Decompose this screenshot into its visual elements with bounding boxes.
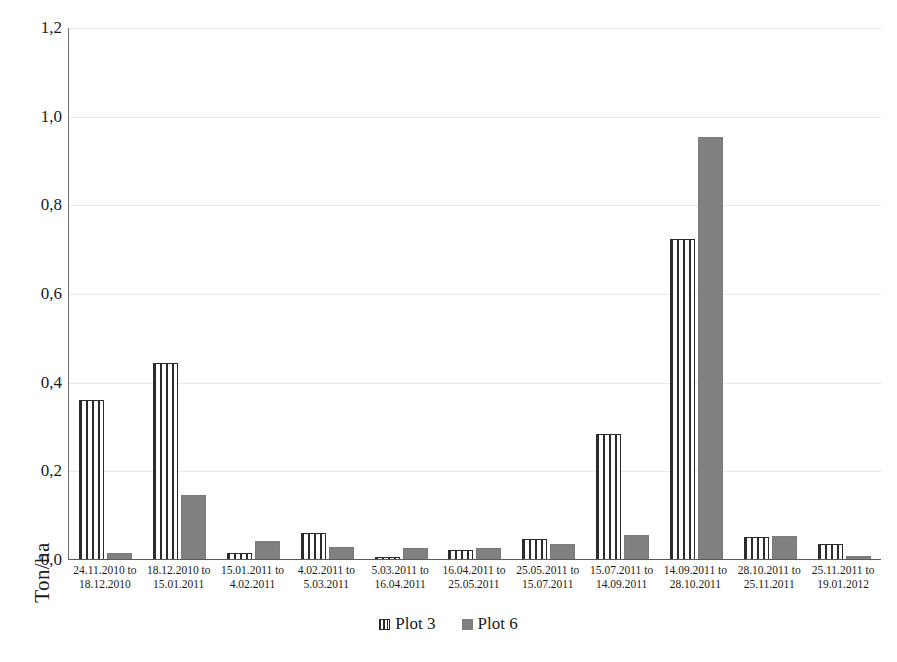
x-label-line-1: 15.07.2011 to	[590, 564, 653, 576]
x-axis-category-label: 4.02.2011 to5.03.2011	[289, 563, 363, 591]
legend-label: Plot 3	[395, 614, 435, 634]
y-axis-tick-label: 1,0	[18, 107, 62, 127]
x-axis-category-label: 15.01.2011 to4.02.2011	[216, 563, 290, 591]
y-axis-tick-label: 0,8	[18, 195, 62, 215]
x-label-line-1: 25.05.2011 to	[516, 564, 579, 576]
x-label-line-2: 28.10.2011	[660, 577, 732, 591]
x-label-line-1: 4.02.2011 to	[298, 564, 355, 576]
bar-plot-3[interactable]	[301, 533, 326, 560]
bar-plot-3[interactable]	[596, 434, 621, 560]
plot-area	[68, 28, 881, 560]
bar-plot-3[interactable]	[153, 363, 178, 560]
x-label-line-2: 15.07.2011	[512, 577, 584, 591]
bar-group	[807, 28, 881, 560]
bar-group	[512, 28, 586, 560]
x-label-line-2: 16.04.2011	[364, 577, 436, 591]
x-label-line-2: 5.03.2011	[290, 577, 362, 591]
x-label-line-1: 5.03.2011 to	[371, 564, 428, 576]
x-axis-category-label: 25.11.2011 to19.01.2012	[806, 563, 880, 591]
legend-label: Plot 6	[478, 614, 518, 634]
bar-group	[364, 28, 438, 560]
x-label-line-2: 14.09.2011	[586, 577, 658, 591]
bar-group	[290, 28, 364, 560]
x-label-line-1: 25.11.2011 to	[812, 564, 875, 576]
x-label-line-1: 18.12.2010 to	[147, 564, 211, 576]
x-label-line-2: 4.02.2011	[217, 577, 289, 591]
x-label-line-1: 14.09.2011 to	[664, 564, 727, 576]
bar-plot-6[interactable]	[181, 495, 206, 560]
bar-plot-6[interactable]	[772, 536, 797, 560]
x-axis-category-label: 5.03.2011 to16.04.2011	[363, 563, 437, 591]
bar-groups	[69, 28, 881, 560]
x-label-line-1: 24.11.2010 to	[73, 564, 136, 576]
bar-group	[143, 28, 217, 560]
x-label-line-1: 15.01.2011 to	[221, 564, 284, 576]
bar-plot-6[interactable]	[255, 541, 280, 560]
legend-item[interactable]: Plot 3	[379, 614, 435, 634]
bar-group	[733, 28, 807, 560]
x-axis-category-label: 25.05.2011 to15.07.2011	[511, 563, 585, 591]
x-label-line-1: 16.04.2011 to	[442, 564, 505, 576]
legend-swatch-icon	[462, 619, 473, 630]
y-axis-tick-label: 1,2	[18, 18, 62, 38]
legend-item[interactable]: Plot 6	[462, 614, 518, 634]
bar-chart: Ton/ha 0,00,20,40,60,81,01,2 24.11.2010 …	[0, 0, 897, 662]
bar-plot-3[interactable]	[670, 239, 695, 560]
bar-group	[69, 28, 143, 560]
bar-plot-6[interactable]	[624, 535, 649, 560]
bar-plot-3[interactable]	[744, 537, 769, 560]
x-axis-category-label: 28.10.2011 to25.11.2011	[732, 563, 806, 591]
y-axis-tick-label: 0,2	[18, 461, 62, 481]
x-label-line-2: 15.01.2011	[143, 577, 215, 591]
bar-group	[438, 28, 512, 560]
x-axis-category-label: 14.09.2011 to28.10.2011	[659, 563, 733, 591]
x-label-line-2: 25.05.2011	[438, 577, 510, 591]
bar-plot-3[interactable]	[79, 400, 104, 560]
x-axis-category-label: 15.07.2011 to14.09.2011	[585, 563, 659, 591]
x-label-line-2: 19.01.2012	[807, 577, 879, 591]
x-axis-category-label: 16.04.2011 to25.05.2011	[437, 563, 511, 591]
bar-plot-3[interactable]	[522, 539, 547, 560]
x-label-line-2: 25.11.2011	[733, 577, 805, 591]
y-axis-tick-label: 0,6	[18, 284, 62, 304]
x-label-line-2: 18.12.2010	[69, 577, 141, 591]
x-axis-category-label: 18.12.2010 to15.01.2011	[142, 563, 216, 591]
bar-group	[586, 28, 660, 560]
x-axis-category-labels: 24.11.2010 to18.12.201018.12.2010 to15.0…	[68, 563, 880, 591]
y-axis-tick-label: 0,0	[18, 550, 62, 570]
x-axis-baseline	[69, 559, 881, 561]
chart-legend: Plot 3Plot 6	[0, 614, 897, 634]
bar-group	[660, 28, 734, 560]
y-axis-tick-label: 0,4	[18, 373, 62, 393]
y-axis-tick-labels: 0,00,20,40,60,81,01,2	[18, 0, 62, 662]
x-label-line-1: 28.10.2011 to	[738, 564, 801, 576]
bar-plot-6[interactable]	[698, 137, 723, 560]
bar-group	[217, 28, 291, 560]
legend-swatch-icon	[379, 619, 390, 630]
x-axis-category-label: 24.11.2010 to18.12.2010	[68, 563, 142, 591]
